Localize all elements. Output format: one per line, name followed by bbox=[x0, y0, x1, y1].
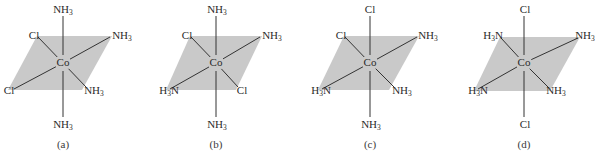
ligand-label-front-left: H3N bbox=[468, 85, 488, 96]
ligand-label-bottom: Cl bbox=[520, 119, 530, 130]
structure-caption: (b) bbox=[210, 139, 223, 150]
ligand-label-top: Cl bbox=[365, 4, 375, 15]
ligand-label-front-left: H3N bbox=[311, 85, 331, 96]
ligand-label-bottom: NH3 bbox=[53, 119, 73, 130]
ligand-label-front-right: NH3 bbox=[546, 85, 566, 96]
structure-caption: (c) bbox=[364, 139, 376, 150]
ligand-label-back-right: NH3 bbox=[262, 30, 282, 41]
metal-center-label: Co bbox=[209, 57, 224, 68]
structure-caption: (a) bbox=[57, 139, 69, 150]
ligand-label-back-left: Cl bbox=[29, 30, 39, 41]
ligand-label-back-left: Cl bbox=[182, 30, 192, 41]
ligand-label-back-left: Cl bbox=[336, 30, 346, 41]
metal-center-label: Co bbox=[56, 57, 71, 68]
ligand-label-back-right: NH3 bbox=[112, 30, 132, 41]
ligand-label-back-right: NH3 bbox=[575, 30, 595, 41]
ligand-label-top: NH3 bbox=[207, 4, 227, 15]
ligand-label-bottom: NH3 bbox=[361, 119, 381, 130]
metal-center-label: Co bbox=[517, 57, 532, 68]
ligand-label-back-right: NH3 bbox=[418, 30, 438, 41]
ligand-label-front-left: H3N bbox=[159, 85, 179, 96]
ligand-label-front-right: Cl bbox=[237, 85, 247, 96]
ligand-label-top: NH3 bbox=[53, 4, 73, 15]
ligand-label-top: Cl bbox=[520, 4, 530, 15]
ligand-label-front-left: Cl bbox=[4, 85, 14, 96]
structure-caption: (d) bbox=[518, 139, 531, 150]
metal-center-label: Co bbox=[363, 57, 378, 68]
ligand-label-bottom: NH3 bbox=[207, 119, 227, 130]
ligand-label-front-right: NH3 bbox=[84, 85, 104, 96]
ligand-label-back-left: H3N bbox=[483, 30, 503, 41]
ligand-label-front-right: NH3 bbox=[392, 85, 412, 96]
